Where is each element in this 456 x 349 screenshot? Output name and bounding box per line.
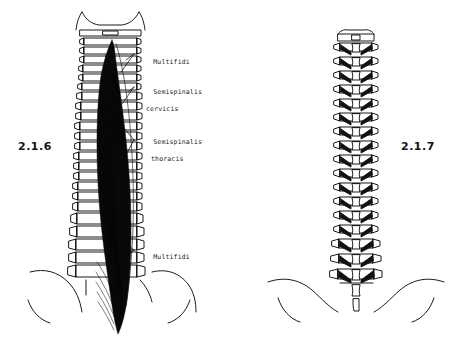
label-semispinalis-cervicis-line1: Semispinalis	[153, 88, 202, 96]
label-semispinalis-thoracis-line1: Semispinalis	[153, 138, 202, 146]
figure-page: 2.1.6 2.1.7 Multifidi Semispinalis cervi…	[0, 0, 456, 349]
pelvis-right	[268, 279, 444, 322]
anatomical-illustration	[0, 0, 456, 349]
sacrum-right	[340, 283, 373, 311]
figure-2-1-7-artwork	[268, 30, 444, 322]
label-semispinalis-thoracis-line2: thoracis	[137, 155, 202, 164]
label-semispinalis-cervicis: Semispinalis cervicis	[137, 79, 202, 130]
label-multifidi-upper-line1: Multifidi	[153, 58, 190, 66]
vertebral-units-with-rotatores	[330, 43, 382, 283]
figure-number-right: 2.1.7	[401, 140, 435, 153]
label-multifidi-lower-line1: Multifidi	[153, 253, 190, 261]
label-multifidi-lower: Multifidi	[137, 244, 190, 270]
label-semispinalis-cervicis-line2: cervicis	[137, 105, 202, 114]
figure-number-left: 2.1.6	[18, 140, 52, 153]
label-semispinalis-thoracis: Semispinalis thoracis	[137, 129, 202, 180]
label-multifidi-upper: Multifidi	[137, 49, 190, 75]
